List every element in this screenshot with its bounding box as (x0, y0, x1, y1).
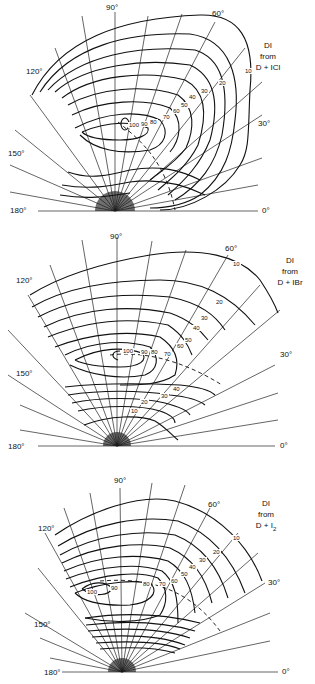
contour-label: 10 (232, 535, 241, 541)
angle-label-90: 90° (106, 4, 118, 12)
angle-label-0: 0° (262, 207, 270, 215)
contour-label: 40 (172, 386, 181, 392)
contour-label: 100 (86, 589, 98, 595)
angle-label-180: 180° (8, 443, 25, 451)
angle-label-120: 120° (26, 68, 43, 76)
polar-contour-plot (0, 453, 315, 684)
contour-label: 40 (188, 564, 197, 570)
angle-label-60: 60° (212, 10, 224, 18)
angle-label-0: 0° (280, 442, 288, 450)
contour-label: 70 (162, 114, 171, 120)
contour-label: 90 (110, 585, 119, 591)
contour-label: 50 (180, 102, 189, 108)
panel-dicl: 90° 60° 120° 30° 150° 180° 0° DI from D … (0, 0, 315, 225)
contour-label: 20 (218, 80, 227, 86)
angle-label-90: 90° (110, 233, 122, 241)
panel-title: DI from D + IBr (260, 255, 315, 288)
contour-label: 80 (142, 581, 151, 587)
angle-label-150: 150° (8, 150, 25, 158)
contour-label: 20 (140, 399, 149, 405)
angle-label-30: 30° (258, 120, 270, 128)
angle-label-180: 180° (44, 669, 61, 677)
contour-label: 30 (200, 88, 209, 94)
contour-label: 70 (158, 581, 167, 587)
contour-label: 70 (163, 351, 172, 357)
contour-label: 80 (150, 349, 159, 355)
angle-label-30: 30° (268, 579, 280, 587)
panel-title: DI from D + I2 (236, 498, 296, 535)
contour-label: 100 (128, 122, 140, 128)
contour-label: 40 (192, 325, 201, 331)
angle-label-60: 60° (225, 245, 237, 253)
contour-label: 90 (140, 349, 149, 355)
contour-label: 80 (149, 119, 158, 125)
angle-label-60: 60° (208, 501, 220, 509)
panel-di2: 90° 60° 120° 30° 150° 180° 0° DI from D … (0, 453, 315, 684)
contour-label: 100 (122, 348, 134, 354)
contour-label: 30 (160, 393, 169, 399)
contour-label: 30 (198, 557, 207, 563)
contour-label: 10 (130, 408, 139, 414)
contour-label: 60 (170, 578, 179, 584)
contour-label: 50 (180, 571, 189, 577)
angle-label-30: 30° (280, 351, 292, 359)
angle-label-90: 90° (114, 477, 126, 485)
contour-label: 40 (188, 94, 197, 100)
angle-label-0: 0° (282, 668, 290, 676)
contour-label: 90 (140, 121, 149, 127)
contour-label: 60 (172, 108, 181, 114)
contour-label: 10 (244, 68, 253, 74)
contour-label: 20 (212, 549, 221, 555)
polar-contour-plot (0, 0, 315, 225)
angle-label-150: 150° (34, 621, 51, 629)
contour-label: 20 (215, 299, 224, 305)
contour-label: 30 (200, 315, 209, 321)
angle-label-180: 180° (10, 207, 27, 215)
contour-label: 60 (176, 343, 185, 349)
angle-label-150: 150° (16, 370, 33, 378)
angle-label-120: 120° (16, 277, 33, 285)
panel-dibr: 90° 60° 120° 30° 150° 180° 0° DI from D … (0, 225, 315, 453)
angle-label-120: 120° (38, 525, 55, 533)
contour-label: 10 (232, 261, 241, 267)
contour-label: 50 (184, 337, 193, 343)
